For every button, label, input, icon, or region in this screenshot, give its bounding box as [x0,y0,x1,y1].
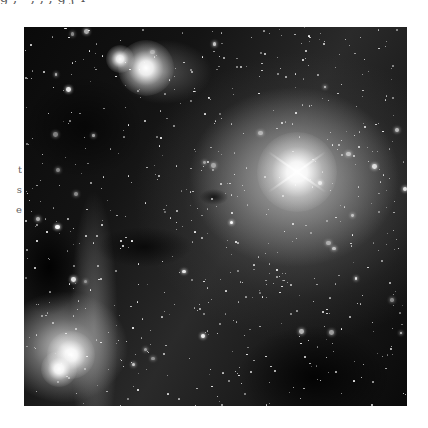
star [83,59,84,60]
star [392,65,394,67]
star [227,183,228,184]
star [232,351,233,352]
star [245,296,247,298]
star [162,261,163,262]
star [174,89,175,90]
nebula-photograph [24,27,407,406]
star [217,333,218,334]
star [120,240,122,242]
star [76,393,77,394]
star [310,232,312,234]
cut-off-side-text: t s e [0,160,22,220]
bright-star [41,351,77,387]
star [211,163,216,168]
star [237,242,239,244]
star [190,168,192,170]
star [167,393,169,395]
star [154,165,155,166]
star [295,112,297,114]
star [97,265,99,267]
star [35,226,36,227]
star [36,217,41,222]
star [373,331,374,332]
star [276,269,277,270]
star [46,231,48,233]
star [353,380,355,382]
star [231,123,233,125]
star [147,284,148,285]
star [360,37,362,39]
star [296,238,297,239]
star [233,320,235,322]
star [43,71,45,73]
star [253,360,254,361]
star [345,39,346,40]
star [221,154,222,155]
star [25,277,27,279]
star [137,301,139,303]
star [125,237,127,239]
star [367,267,368,268]
star [269,33,270,34]
star [175,68,176,69]
star [148,352,149,353]
star [339,54,340,55]
star [28,144,30,146]
star [211,299,212,300]
star [403,161,404,162]
star [393,294,394,295]
star [137,389,139,391]
star [95,53,96,54]
star [390,298,393,301]
star [238,375,240,377]
star [26,346,27,347]
star [386,207,387,208]
star [103,176,104,177]
star [405,394,406,395]
star [277,252,278,253]
star [385,46,386,47]
star [383,174,384,175]
star [110,148,111,149]
star [45,218,47,220]
star [53,87,54,88]
star [94,67,95,68]
star [210,147,212,149]
star [395,128,399,132]
star [350,243,352,245]
star [372,381,374,383]
star [160,137,162,139]
star [234,152,236,154]
star [253,264,255,266]
star [116,343,117,344]
star [386,95,388,97]
star [59,185,60,186]
star [396,239,397,240]
star [203,281,205,283]
star [269,273,270,274]
star [29,200,31,202]
star [377,353,378,354]
star [45,315,47,317]
star [167,375,168,376]
star [362,295,363,296]
star [330,132,331,133]
star [270,366,272,368]
star [79,113,81,115]
star [213,42,217,46]
star [368,71,369,72]
star [219,113,221,115]
star [273,283,274,284]
star [106,391,108,393]
star [382,356,383,357]
star [349,45,350,46]
star [246,354,247,355]
star [36,391,37,392]
star [211,198,213,200]
star [353,262,354,263]
side-text-fragment: t [0,160,22,180]
star [123,366,124,367]
star [375,124,377,126]
star [253,269,255,271]
star [75,61,76,62]
